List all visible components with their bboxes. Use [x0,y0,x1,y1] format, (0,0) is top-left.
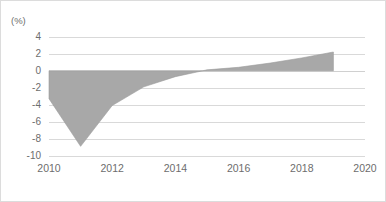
x-tick-label: 2010 [37,162,61,174]
y-tick-label: -10 [27,150,42,161]
y-axis-unit-label: (%) [11,15,26,26]
y-tick-label: -2 [32,82,41,93]
x-tick-label: 2012 [101,162,125,174]
y-tick-label: -6 [32,116,41,127]
chart-frame: 420-2-4-6-8-10 201020122014201620182020 … [0,0,386,202]
area-series-path [49,52,333,146]
y-tick-label: 4 [35,31,41,42]
series-area-group [49,52,333,146]
y-tick-label: 0 [35,65,41,76]
area-chart: 420-2-4-6-8-10 201020122014201620182020 … [1,1,386,202]
y-tick-label: -8 [32,133,41,144]
x-tick-label: 2020 [353,162,377,174]
x-tick-label: 2014 [164,162,188,174]
y-tick-label: -4 [32,99,41,110]
y-axis-ticks: 420-2-4-6-8-10 [27,31,42,161]
y-tick-label: 2 [35,48,41,59]
x-tick-label: 2018 [290,162,314,174]
x-tick-label: 2016 [227,162,251,174]
x-axis-ticks: 201020122014201620182020 [37,162,377,174]
